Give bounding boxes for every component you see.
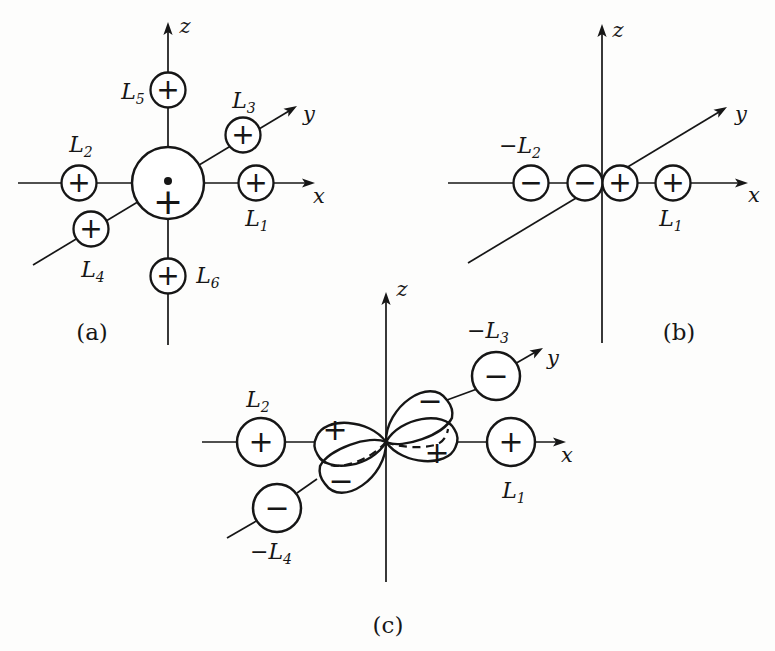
ligand-sign-L4: − (264, 490, 289, 525)
ligand-label-minus-L2: −L2 (499, 133, 541, 161)
ligand-label-minus-L3: −L3 (467, 318, 509, 346)
ligand-label-L3: L3 (231, 88, 256, 116)
y-axis-label: y (546, 346, 560, 370)
panel-caption-b: (b) (663, 319, 696, 345)
ligand-label-L2: L2 (68, 132, 93, 160)
ligand-label-L1: L1 (244, 206, 269, 234)
panel-a: + + + + + + + L5 L3 L2 L1 L4 L6 z x y (a… (18, 14, 325, 345)
orbital-lobe-sign-lower-right: + (424, 435, 449, 470)
x-axis-label: x (313, 184, 325, 208)
panel-b: − − + + −L2 L1 z x y (b) (448, 18, 760, 345)
ligand-sign-L3: + (231, 118, 254, 151)
orbital-lobe-sign-upper-right: − (417, 383, 442, 418)
ligand-sign-L2: + (248, 424, 273, 459)
ligand-label-L1: L1 (658, 206, 683, 234)
panel-c: − + + − + + − − L2 L1 −L3 −L4 z x y (c) (202, 277, 573, 638)
panel-caption-a: (a) (76, 319, 108, 345)
ligand-sign-L2: − (519, 166, 542, 199)
orbital-lobe-sign-upper-left: + (322, 412, 347, 447)
ligand-label-L6: L6 (195, 263, 220, 291)
connector-L4-to-lobe (297, 479, 317, 493)
ligand-sign-L1: + (244, 166, 267, 199)
z-axis-label: z (395, 277, 408, 301)
ligand-label-L4: L4 (80, 257, 105, 285)
ligand-sign-L1: + (498, 424, 523, 459)
y-axis-label: y (302, 102, 316, 126)
z-axis-label: z (178, 14, 191, 38)
ligand-sign-L2: + (67, 166, 90, 199)
x-axis-label: x (748, 183, 760, 207)
orbital-lobe-sign-lower-left: − (328, 463, 353, 498)
orbital-lobe-sign-left: − (573, 166, 596, 199)
ligand-sign-L1: + (661, 166, 684, 199)
y-axis-line-lower (227, 520, 258, 538)
ligand-label-L2: L2 (245, 387, 270, 415)
orbital-lobe-sign-right: + (608, 166, 631, 199)
ligand-sign-L6: + (156, 259, 179, 292)
ligand-label-L5: L5 (120, 79, 145, 107)
ligand-label-L1: L1 (501, 478, 526, 506)
y-axis-arrowhead (713, 103, 729, 118)
panel-caption-c: (c) (373, 612, 404, 638)
ligand-sign-L4: + (79, 212, 102, 245)
ligand-sign-L5: + (156, 73, 179, 106)
ligand-sign-L3: − (483, 358, 508, 393)
x-axis-label: x (561, 443, 573, 467)
y-axis-label: y (734, 102, 748, 126)
connector-lobe-to-L3 (447, 389, 477, 400)
y-axis-arrowhead (283, 102, 299, 117)
z-axis-label: z (611, 18, 624, 42)
ligand-label-minus-L4: −L4 (250, 539, 292, 567)
central-ion-sign: + (153, 181, 183, 222)
y-axis-arrowhead (529, 344, 545, 358)
octahedral-complex-orbital-figure: + + + + + + + L5 L3 L2 L1 L4 L6 z x y (a… (0, 0, 775, 651)
figure-canvas: + + + + + + + L5 L3 L2 L1 L4 L6 z x y (a… (0, 0, 775, 651)
